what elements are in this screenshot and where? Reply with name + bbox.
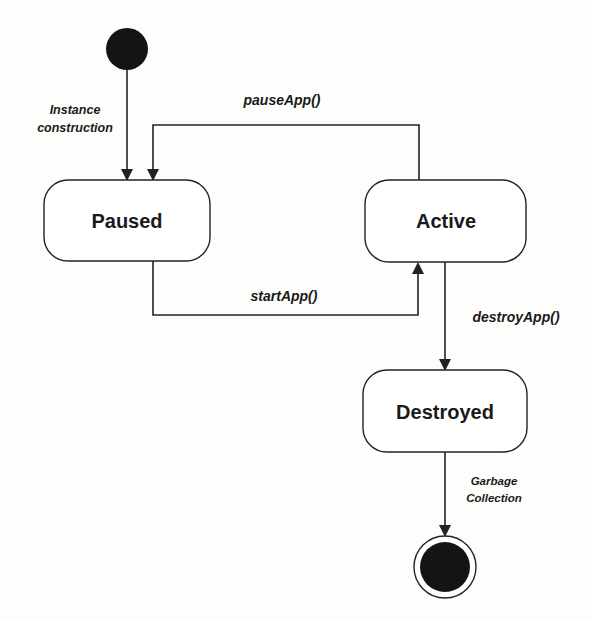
label-collection: Collection: [466, 492, 522, 504]
initial-state-node: [106, 28, 148, 70]
transition-garbage-collection: Garbage Collection: [445, 452, 522, 535]
state-destroyed: Destroyed: [363, 370, 527, 452]
transition-pause-app: pauseApp(): [153, 92, 419, 180]
label-start-app: startApp(): [251, 288, 318, 304]
label-instance: Instance: [50, 103, 101, 117]
state-destroyed-label: Destroyed: [396, 401, 494, 423]
transition-start-app: startApp(): [153, 261, 418, 315]
state-active: Active: [365, 180, 526, 262]
transition-instance-construction: Instance construction: [37, 70, 127, 179]
label-pause-app: pauseApp(): [243, 92, 321, 108]
state-active-label: Active: [416, 210, 476, 232]
state-paused-label: Paused: [91, 210, 162, 232]
label-construction: construction: [37, 121, 113, 135]
label-garbage: Garbage: [471, 475, 518, 487]
state-paused: Paused: [44, 180, 210, 261]
state-diagram: Instance construction pauseApp() Paused …: [0, 0, 592, 620]
transition-destroy-app: destroyApp(): [445, 262, 560, 369]
label-destroy-app: destroyApp(): [472, 309, 559, 325]
final-state-node: [414, 536, 476, 598]
